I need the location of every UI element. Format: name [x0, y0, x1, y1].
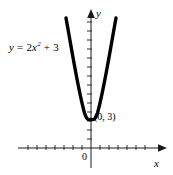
y-axis-arrow-icon: [87, 9, 95, 18]
vertex-point-label: (0, 3): [94, 112, 116, 122]
origin-label: 0: [82, 152, 87, 162]
graph-canvas: [0, 0, 173, 175]
x-axis-arrow-icon: [158, 144, 167, 152]
y-axis-label: y: [96, 8, 101, 19]
equation-label: y = 2x2 + 3: [9, 41, 59, 53]
equation-tail: + 3: [41, 41, 59, 53]
parabola-figure: y = 2x2 + 3 (0, 3) y x 0: [0, 0, 173, 175]
x-axis-label: x: [154, 158, 159, 169]
equation-equals: = 2: [14, 41, 32, 53]
